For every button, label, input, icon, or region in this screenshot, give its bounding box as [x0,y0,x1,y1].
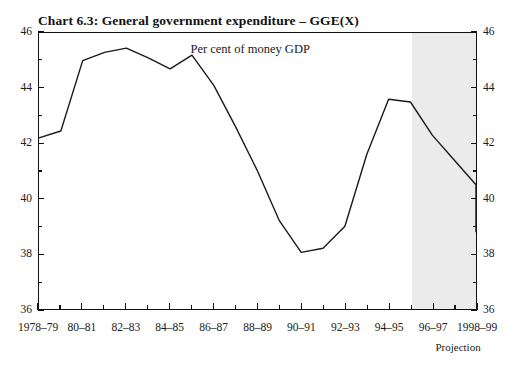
y-tick-major-right [471,87,477,88]
x-tick-label: 88–89 [243,321,272,333]
y-tick-minor-left [38,115,42,116]
x-tick [257,303,258,310]
y-tick-label-left: 40 [10,192,32,204]
x-tick [411,305,412,310]
chart-page: Chart 6.3: General government expenditur… [0,0,517,372]
x-tick [59,305,60,310]
y-tick-major-left [38,309,44,310]
x-tick-label: 1978–79 [18,321,58,333]
y-tick-major-right [471,254,477,255]
y-tick-label-right: 46 [483,25,505,37]
x-tick [147,305,148,310]
y-tick-major-left [38,254,44,255]
x-tick [345,303,346,310]
x-tick [235,305,236,310]
y-tick-minor-left [38,282,42,283]
y-tick-minor-left [38,59,42,60]
y-tick-label-left: 46 [10,25,32,37]
x-tick [476,303,477,310]
x-tick [81,303,82,310]
y-tick-label-left: 44 [10,81,32,93]
x-tick-label: 86–87 [199,321,228,333]
y-tick-minor-right [473,59,477,60]
data-series-line [39,33,476,309]
y-tick-major-right [471,31,477,32]
x-tick [103,305,104,310]
page-title: Chart 6.3: General government expenditur… [38,13,359,29]
y-tick-label-right: 42 [483,136,505,148]
y-tick-major-left [38,31,44,32]
x-tick [454,305,455,310]
y-tick-major-left [38,87,44,88]
x-tick-label: 92–93 [331,321,360,333]
gge-x-line [39,48,476,252]
y-tick-minor-left [38,170,42,171]
plot-area: Per cent of money GDP [38,32,477,310]
y-tick-label-left: 38 [10,247,32,259]
y-tick-major-right [471,198,477,199]
x-tick-label: 96–97 [419,321,448,333]
y-tick-label-right: 40 [483,192,505,204]
x-tick [191,305,192,310]
x-tick-label: 82–83 [111,321,140,333]
x-tick [367,305,368,310]
y-tick-minor-right [473,226,477,227]
y-tick-major-left [38,143,44,144]
y-tick-minor-right [473,115,477,116]
x-tick-label: 1998–99 [457,321,497,333]
y-tick-label-right: 38 [483,247,505,259]
y-tick-major-right [471,143,477,144]
y-tick-minor-right [473,282,477,283]
y-tick-minor-left [38,226,42,227]
y-tick-label-right: 36 [483,303,505,315]
projection-caption: Projection [435,341,480,353]
y-tick-major-left [38,198,44,199]
x-tick [37,303,38,310]
y-tick-label-left: 42 [10,136,32,148]
x-tick [323,305,324,310]
y-tick-label-right: 44 [483,81,505,93]
x-tick [433,303,434,310]
x-tick-label: 80–81 [68,321,97,333]
x-tick [301,303,302,310]
x-tick-label: 84–85 [155,321,184,333]
x-tick-label: 90–91 [287,321,316,333]
x-tick [389,303,390,310]
x-tick [125,303,126,310]
x-tick [213,303,214,310]
x-tick [169,303,170,310]
x-tick-label: 94–95 [375,321,404,333]
x-tick [279,305,280,310]
y-tick-minor-right [473,170,477,171]
y-tick-label-left: 36 [10,303,32,315]
